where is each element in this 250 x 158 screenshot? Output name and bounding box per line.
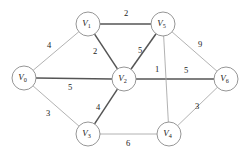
node-v0[interactable]: V0 [12, 66, 36, 90]
edge-weight-v4-v6: 3 [195, 101, 199, 111]
node-v6[interactable]: V6 [214, 67, 238, 91]
node-v2[interactable]: V2 [112, 67, 136, 91]
edge-weight-v1-v5: 2 [124, 8, 128, 18]
edge-weight-v2-v5: 5 [138, 45, 142, 55]
node-v3[interactable]: V3 [76, 122, 100, 146]
edge-weight-v0-v3: 3 [46, 108, 50, 118]
graph-figure: V0V1V5V2V6V3V4 422595513463 [0, 0, 250, 158]
node-subscript-v3: 3 [88, 132, 91, 139]
node-subscript-v5: 5 [163, 22, 166, 29]
edge-weight-v1-v2: 2 [93, 46, 97, 56]
node-v1[interactable]: V1 [76, 12, 100, 36]
edge-weight-v2-v3: 4 [96, 102, 101, 112]
graph-canvas: V0V1V5V2V6V3V4 422595513463 [0, 0, 250, 158]
edge-weight-v5-v6: 9 [198, 39, 202, 49]
node-subscript-v2: 2 [124, 77, 127, 84]
node-subscript-v0: 0 [24, 76, 27, 83]
edge-v0-v2 [36, 78, 112, 79]
node-subscript-v1: 1 [88, 22, 91, 29]
edge-weight-v0-v1: 4 [47, 40, 52, 50]
node-v5[interactable]: V5 [151, 12, 175, 36]
edge-weight-v2-v6: 5 [184, 65, 188, 75]
edge-weight-v5-v4: 1 [155, 64, 159, 74]
edge-v2-v5 [131, 34, 156, 69]
node-v4[interactable]: V4 [157, 122, 181, 146]
node-subscript-v6: 6 [226, 77, 229, 84]
edge-weight-v3-v4: 6 [126, 138, 130, 148]
edge-v5-v6 [172, 32, 217, 71]
edge-v1-v2 [95, 34, 118, 69]
edge-v0-v1 [33, 32, 79, 71]
edge-weight-v0-v2: 5 [68, 82, 72, 92]
node-subscript-v4: 4 [169, 132, 172, 139]
